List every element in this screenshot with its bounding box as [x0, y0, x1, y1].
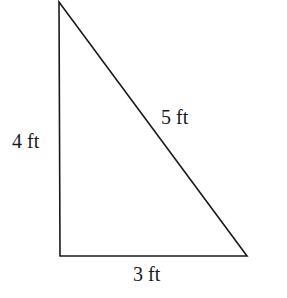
triangle-shape: [0, 0, 287, 298]
bottom-side-label: 3 ft: [133, 264, 160, 284]
triangle-diagram: 4 ft 5 ft 3 ft: [0, 0, 287, 298]
left-side-label: 4 ft: [12, 131, 39, 151]
hypotenuse-label: 5 ft: [161, 107, 188, 127]
